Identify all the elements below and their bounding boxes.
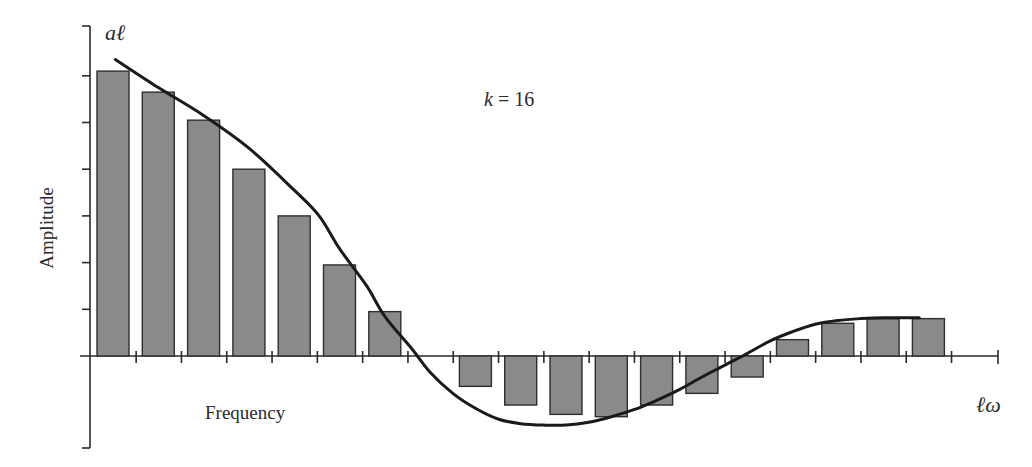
bar	[233, 169, 265, 356]
bar	[686, 356, 718, 393]
bar	[188, 120, 220, 356]
bar	[142, 92, 174, 356]
parameter-annotation: k = 16	[484, 88, 534, 111]
bar	[278, 216, 310, 356]
bar	[641, 356, 673, 405]
bar	[912, 319, 944, 356]
bar-series	[97, 71, 944, 417]
bar	[505, 356, 537, 405]
bar	[867, 319, 899, 356]
bar	[459, 356, 491, 386]
x-axis-label: Frequency	[205, 402, 285, 424]
x-axis-variable: ℓω	[976, 392, 1001, 418]
bar	[550, 356, 582, 414]
bar	[822, 323, 854, 356]
annotation-value: = 16	[493, 88, 534, 110]
plot-area	[0, 0, 1032, 467]
chart: Amplitude Frequency aℓ ℓω k = 16	[0, 0, 1032, 467]
y-axis-label: Amplitude	[36, 187, 58, 268]
bar	[97, 71, 129, 356]
annotation-variable: k	[484, 88, 493, 110]
bar	[595, 356, 627, 417]
bar	[777, 340, 809, 356]
y-axis-variable: aℓ	[105, 20, 125, 46]
bar	[324, 265, 356, 356]
